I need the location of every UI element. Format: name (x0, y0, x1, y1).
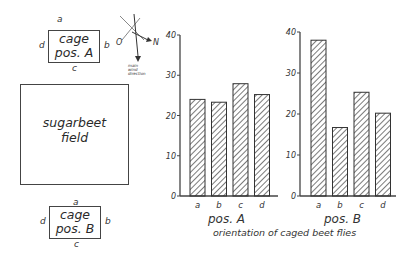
x-tick-label: b (337, 200, 342, 210)
x-tick-label: d (380, 200, 386, 210)
x-tick-label: d (259, 200, 265, 210)
x-tick-label: b (216, 200, 221, 210)
x-tick-label: c (359, 200, 364, 210)
y-tick-label: 0 (291, 192, 296, 201)
bar-b (212, 102, 227, 196)
x-tick-label: a (316, 200, 321, 210)
bar-d (376, 113, 391, 196)
y-tick-label: 10 (166, 152, 176, 161)
y-tick-label: 20 (286, 110, 296, 119)
bar-b (333, 128, 348, 196)
bar-a (190, 99, 205, 196)
y-tick-label: 10 (286, 151, 296, 160)
bar-d (255, 95, 270, 196)
bar-c (233, 84, 248, 196)
y-tick-label: 20 (166, 112, 176, 121)
x-tick-label: a (195, 200, 200, 210)
chart-caption: orientation of caged beet flies (213, 227, 356, 238)
chart-pos-b: 010203040abcdpos. B (286, 28, 396, 226)
y-tick-label: 40 (166, 31, 176, 40)
bar-c (354, 92, 369, 196)
x-tick-label: c (238, 200, 243, 210)
chart-pos-a: 010203040abcdpos. A (166, 31, 278, 226)
bar-charts: 010203040abcdpos. A 010203040abcdpos. B … (0, 0, 414, 257)
y-tick-label: 30 (166, 71, 176, 80)
chart-xlabel: pos. B (323, 212, 361, 226)
bar-a (311, 40, 326, 196)
y-tick-label: 30 (286, 69, 296, 78)
chart-xlabel: pos. A (207, 212, 245, 226)
y-tick-label: 40 (286, 28, 296, 37)
y-tick-label: 0 (171, 192, 176, 201)
